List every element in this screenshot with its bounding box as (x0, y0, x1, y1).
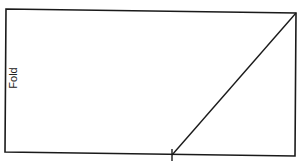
diagonal-fold-line (172, 13, 296, 155)
fold-label: Fold (7, 67, 19, 88)
fold-diagram: Fold (0, 0, 300, 164)
paper-rectangle (5, 9, 296, 156)
